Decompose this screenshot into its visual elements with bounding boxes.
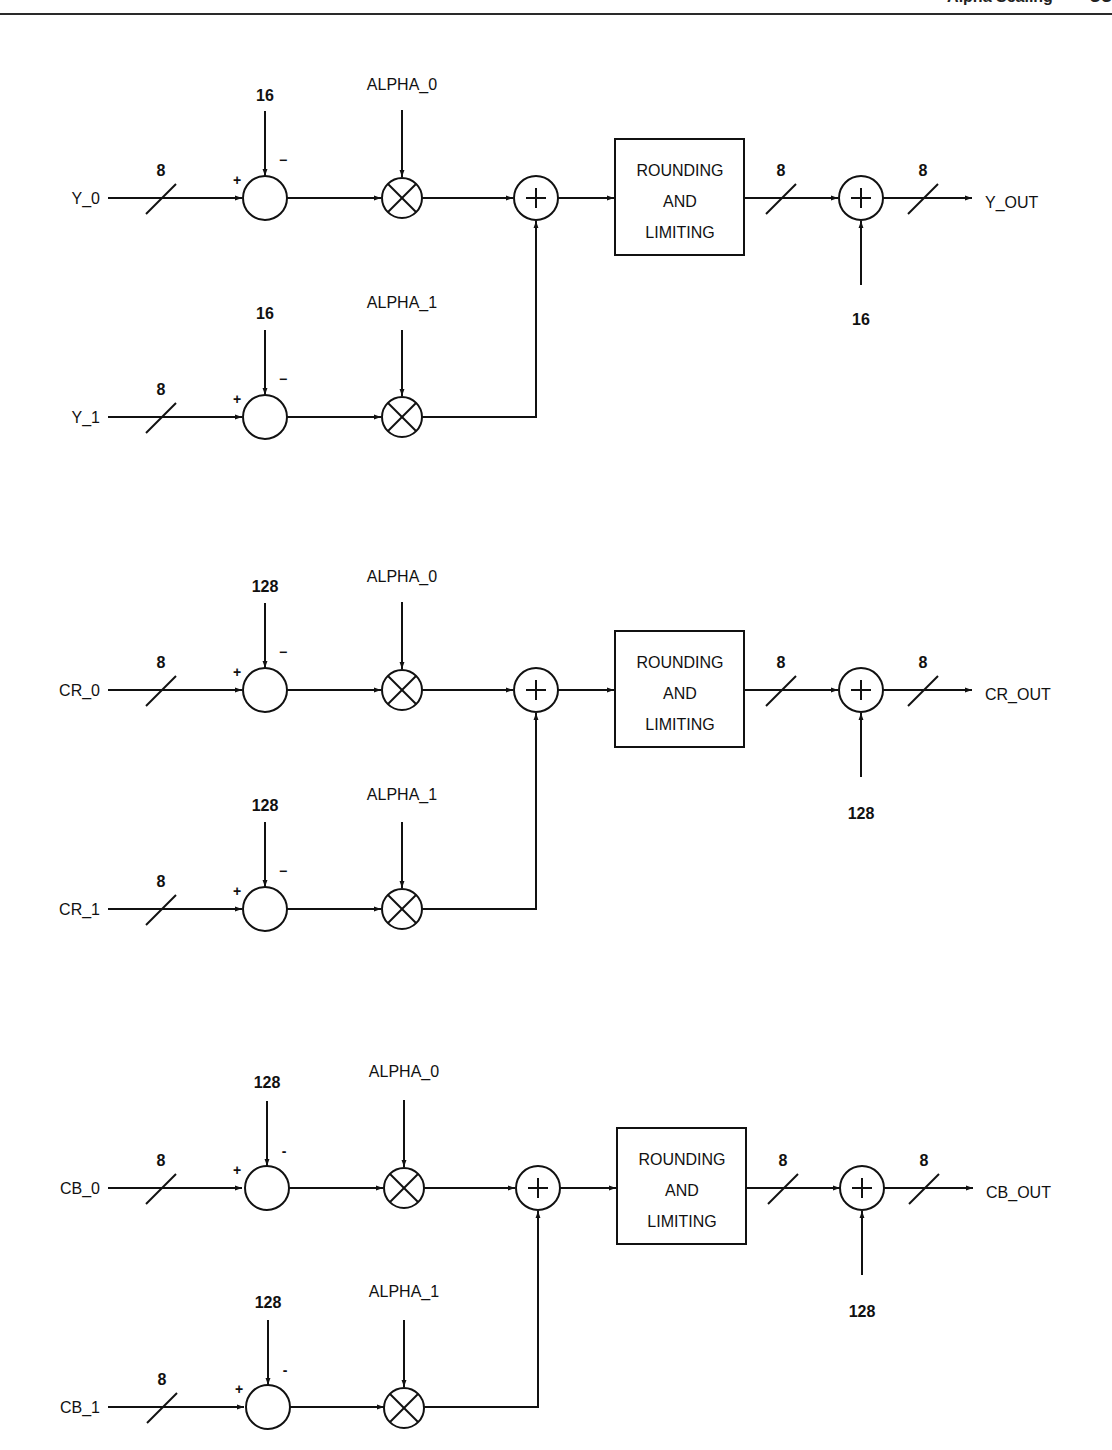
input-label-1: Y_1 bbox=[72, 409, 101, 427]
plus-sign: + bbox=[233, 664, 241, 680]
input-label-1: CR_1 bbox=[59, 901, 100, 919]
document-page: Alpha ScalingCC Y_0 8 + − 16 ALPHA_0 bbox=[0, 0, 1112, 1450]
input-label-1: CB_1 bbox=[60, 1399, 100, 1417]
box-label-line-3: LIMITING bbox=[647, 1213, 716, 1230]
offset-label-1: 128 bbox=[255, 1294, 282, 1311]
bus-width-label: 8 bbox=[777, 654, 786, 671]
plus-sign: + bbox=[233, 883, 241, 899]
offset-label-0: 128 bbox=[254, 1074, 281, 1091]
plus-sign: + bbox=[233, 391, 241, 407]
box-label-line-1: ROUNDING bbox=[636, 162, 723, 179]
bus-width-label: 8 bbox=[919, 654, 928, 671]
section-cb: CB_0 8 + - 128 ALPHA_0 ROUNDING AND LIMI… bbox=[60, 1063, 1051, 1429]
minus-sign: - bbox=[282, 1143, 287, 1159]
minus-sign: − bbox=[279, 644, 287, 660]
box-label-line-1: ROUNDING bbox=[638, 1151, 725, 1168]
minus-sign: − bbox=[279, 863, 287, 879]
alpha-mixing-diagram: Y_0 8 + − 16 ALPHA_0 ROUNDING AND LIMITI… bbox=[0, 0, 1112, 1450]
offset-label-1: 128 bbox=[252, 797, 279, 814]
bus-width-label: 8 bbox=[157, 1152, 166, 1169]
minus-sign: - bbox=[283, 1362, 288, 1378]
subtractor-node-icon bbox=[243, 395, 287, 439]
plus-sign: + bbox=[235, 1381, 243, 1397]
subtractor-node-icon bbox=[243, 887, 287, 931]
subtractor-node-icon bbox=[243, 668, 287, 712]
offset-label-0: 16 bbox=[256, 87, 274, 104]
bus-width-label: 8 bbox=[157, 162, 166, 179]
mul-to-adder-feed-wire bbox=[424, 1211, 538, 1407]
plus-sign: + bbox=[233, 1162, 241, 1178]
output-offset-label: 128 bbox=[849, 1303, 876, 1320]
bus-width-label: 8 bbox=[157, 381, 166, 398]
minus-sign: − bbox=[279, 152, 287, 168]
bus-width-label: 8 bbox=[157, 654, 166, 671]
box-label-line-1: ROUNDING bbox=[636, 654, 723, 671]
alpha-label-0: ALPHA_0 bbox=[367, 568, 437, 586]
section-cr: CR_0 8 + − 128 ALPHA_0 ROUNDING AND LIMI… bbox=[59, 568, 1051, 931]
alpha-label-1: ALPHA_1 bbox=[367, 786, 437, 804]
alpha-label-0: ALPHA_0 bbox=[369, 1063, 439, 1081]
box-label-line-2: AND bbox=[665, 1182, 699, 1199]
input-label-0: Y_0 bbox=[72, 190, 101, 208]
offset-label-1: 16 bbox=[256, 305, 274, 322]
output-label: Y_OUT bbox=[985, 194, 1039, 212]
subtractor-node-icon bbox=[243, 176, 287, 220]
subtractor-node-icon bbox=[245, 1166, 289, 1210]
input-label-0: CB_0 bbox=[60, 1180, 100, 1198]
output-label: CB_OUT bbox=[986, 1184, 1051, 1202]
bus-width-label: 8 bbox=[158, 1371, 167, 1388]
plus-sign: + bbox=[233, 172, 241, 188]
bus-width-label: 8 bbox=[920, 1152, 929, 1169]
section-y: Y_0 8 + − 16 ALPHA_0 ROUNDING AND LIMITI… bbox=[72, 76, 1039, 439]
offset-label-0: 128 bbox=[252, 578, 279, 595]
box-label-line-2: AND bbox=[663, 193, 697, 210]
bus-width-label: 8 bbox=[157, 873, 166, 890]
subtractor-node-icon bbox=[246, 1385, 290, 1429]
box-label-line-3: LIMITING bbox=[645, 716, 714, 733]
input-label-0: CR_0 bbox=[59, 682, 100, 700]
bus-width-label: 8 bbox=[919, 162, 928, 179]
alpha-label-1: ALPHA_1 bbox=[367, 294, 437, 312]
output-offset-label: 128 bbox=[848, 805, 875, 822]
output-label: CR_OUT bbox=[985, 686, 1051, 704]
box-label-line-3: LIMITING bbox=[645, 224, 714, 241]
alpha-label-0: ALPHA_0 bbox=[367, 76, 437, 94]
minus-sign: − bbox=[279, 371, 287, 387]
mul-to-adder-feed-wire bbox=[422, 221, 536, 417]
box-label-line-2: AND bbox=[663, 685, 697, 702]
bus-width-label: 8 bbox=[777, 162, 786, 179]
output-offset-label: 16 bbox=[852, 311, 870, 328]
bus-width-label: 8 bbox=[779, 1152, 788, 1169]
alpha-label-1: ALPHA_1 bbox=[369, 1283, 439, 1301]
mul-to-adder-feed-wire bbox=[422, 713, 536, 909]
